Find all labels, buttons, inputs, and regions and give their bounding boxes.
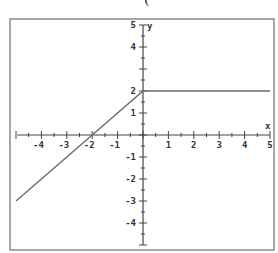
- tick-labels: -4-3-2-1123455421-1-2-3-4: [33, 20, 273, 228]
- function-graph: -4-3-2-1123455421-1-2-3-4 x y: [0, 0, 278, 253]
- x-tick-label: -4: [33, 140, 44, 150]
- x-tick-label: 3: [216, 140, 221, 150]
- y-tick-label: -2: [125, 174, 136, 184]
- y-tick-label: -3: [125, 196, 136, 206]
- x-tick-label: 4: [242, 140, 248, 150]
- y-tick-label: 2: [131, 86, 136, 96]
- x-tick-label: 5: [267, 140, 272, 150]
- tick-marks: [16, 25, 270, 245]
- y-tick-label: -1: [125, 152, 136, 162]
- y-tick-label: 1: [131, 108, 136, 118]
- x-axis-label: x: [265, 121, 271, 131]
- x-tick-label: -1: [109, 140, 120, 150]
- y-tick-label: 5: [131, 20, 136, 30]
- x-tick-label: -3: [58, 140, 69, 150]
- y-tick-label: 4: [131, 42, 137, 52]
- y-axis-label: y: [147, 21, 153, 31]
- x-tick-label: 2: [191, 140, 196, 150]
- y-tick-label: -4: [125, 218, 136, 228]
- x-tick-label: 1: [166, 140, 171, 150]
